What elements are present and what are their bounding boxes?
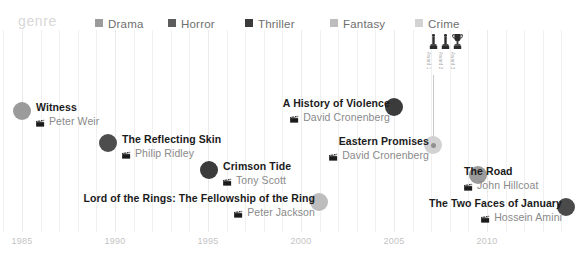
legend-swatch-icon — [245, 19, 253, 27]
award-label: Award 3 — [450, 52, 455, 69]
axis-tick-label: 2005 — [383, 236, 404, 246]
axis-tick-label: 1995 — [197, 236, 218, 246]
legend-item-label: Drama — [108, 18, 144, 30]
award-connector-line — [433, 75, 434, 137]
clapperboard-icon — [464, 180, 473, 188]
film-label: A History of ViolenceDavid Cronenberg — [0, 97, 390, 124]
film-director: David Cronenberg — [303, 111, 390, 124]
legend-item-fantasy[interactable]: Fantasy — [330, 14, 385, 32]
axis-tick-label: 2000 — [290, 236, 311, 246]
award-statuette-icon — [428, 33, 439, 50]
clapperboard-icon — [223, 175, 232, 183]
legend-item-thriller[interactable]: Thriller — [245, 14, 295, 32]
axis-tick-label: 1990 — [104, 236, 125, 246]
film-director: Hossein Amini — [494, 211, 562, 224]
legend-item-drama[interactable]: Drama — [95, 14, 144, 32]
legend-swatch-icon — [95, 19, 103, 27]
legend-swatch-icon — [330, 19, 338, 27]
clapperboard-icon — [329, 150, 338, 158]
legend-title: genre — [18, 13, 57, 29]
legend-swatch-icon — [168, 19, 176, 27]
legend-item-label: Crime — [428, 18, 460, 30]
film-director-row: Tony Scott — [223, 174, 291, 187]
film-title: The Road — [464, 165, 538, 178]
film-title: Eastern Promises — [0, 135, 429, 148]
legend-item-label: Fantasy — [343, 18, 385, 30]
film-label: Eastern PromisesDavid Cronenberg — [0, 135, 429, 162]
film-label: The RoadJohn Hillcoat — [464, 165, 538, 192]
timeline-chart: genre DramaHorrorThrillerFantasyCrime Wi… — [0, 0, 587, 264]
film-director-row: David Cronenberg — [0, 149, 429, 162]
film-label: Crimson TideTony Scott — [223, 160, 291, 187]
film-director-row: John Hillcoat — [464, 179, 538, 192]
legend-swatch-icon — [415, 19, 423, 27]
clapperboard-icon — [481, 212, 490, 220]
award-statuette-icon — [440, 33, 451, 50]
axis-tick-label: 1985 — [11, 236, 32, 246]
clapperboard-icon — [290, 112, 299, 120]
award-trophy-icon — [452, 33, 463, 50]
film-label: The Two Faces of JanuaryHossein Amini — [0, 197, 562, 224]
axis-tick-label: 2010 — [476, 236, 497, 246]
legend-item-label: Horror — [181, 18, 215, 30]
film-title: Crimson Tide — [223, 160, 291, 173]
film-director: Tony Scott — [236, 174, 286, 187]
legend-item-label: Thriller — [258, 18, 295, 30]
film-director-row: Hossein Amini — [0, 211, 562, 224]
film-title: The Two Faces of January — [0, 197, 562, 210]
legend-item-horror[interactable]: Horror — [168, 14, 215, 32]
film-director: John Hillcoat — [477, 179, 538, 192]
legend-item-crime[interactable]: Crime — [415, 14, 460, 32]
award-label: Award 2 — [438, 52, 443, 69]
film-dot-award-marker — [431, 143, 436, 148]
film-director: David Cronenberg — [342, 149, 429, 162]
award-label: Award 1 — [426, 52, 431, 69]
film-dot[interactable] — [200, 161, 218, 179]
film-director-row: David Cronenberg — [0, 111, 390, 124]
film-title: A History of Violence — [0, 97, 390, 110]
